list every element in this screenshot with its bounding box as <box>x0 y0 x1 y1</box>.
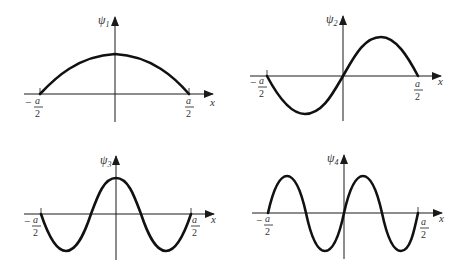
y-axis-label: ψ3 <box>100 153 111 169</box>
left-bound-label: − a 2 <box>250 75 267 99</box>
right-bound-label: a 2 <box>185 95 194 119</box>
svg-text:2: 2 <box>192 227 197 238</box>
svg-text:a: a <box>186 95 191 106</box>
svg-text:2: 2 <box>415 91 420 102</box>
y-axis-label: ψ4 <box>327 151 338 167</box>
panel-psi2: ψ2 x − a 2 a 2 <box>250 12 443 121</box>
svg-text:a: a <box>192 214 197 225</box>
svg-text:2: 2 <box>265 226 270 237</box>
svg-text:a: a <box>33 214 38 225</box>
panel-psi1: ψ1 x − a 2 a 2 <box>24 13 215 122</box>
svg-text:2: 2 <box>33 227 38 238</box>
left-bound-label: − a 2 <box>25 95 43 119</box>
svg-text:2: 2 <box>186 108 191 119</box>
svg-text:a: a <box>35 95 40 106</box>
panel-psi3: ψ3 x − a 2 a 2 <box>24 153 216 260</box>
panel-psi4: ψ4 x − a 2 a 2 <box>252 151 444 259</box>
svg-text:a: a <box>265 213 270 224</box>
y-axis-label: ψ2 <box>326 12 337 28</box>
x-axis-label: x <box>209 96 215 108</box>
x-axis-label: x <box>438 212 444 224</box>
svg-text:2: 2 <box>421 229 426 240</box>
svg-text:a: a <box>415 78 420 89</box>
x-axis-label: x <box>437 75 443 87</box>
left-bound-label: − a 2 <box>24 214 41 238</box>
svg-text:a: a <box>421 216 426 227</box>
svg-text:−: − <box>250 76 256 88</box>
svg-text:2: 2 <box>35 108 40 119</box>
svg-text:a: a <box>259 75 264 86</box>
wavefunction-figure: ψ1 x − a 2 a 2 ψ2 x − a 2 a 2 <box>0 0 463 269</box>
left-bound-label: − a 2 <box>256 213 273 237</box>
right-bound-label: a 2 <box>414 78 423 102</box>
y-axis-label: ψ1 <box>98 13 109 29</box>
svg-text:−: − <box>256 214 262 226</box>
right-bound-label: a 2 <box>191 214 200 238</box>
svg-text:−: − <box>24 215 30 227</box>
svg-text:2: 2 <box>259 88 264 99</box>
svg-text:−: − <box>25 96 31 108</box>
x-axis-label: x <box>210 213 216 225</box>
right-bound-label: a 2 <box>420 216 429 240</box>
